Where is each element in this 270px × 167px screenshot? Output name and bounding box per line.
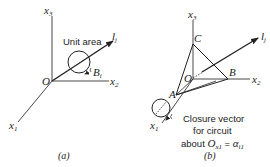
closure-circle (152, 99, 170, 117)
caption-b: (b) (204, 150, 216, 162)
axis-x1 (18, 81, 52, 122)
panel-b: x3 x2 x1 O C B A lj Closure vector for c… (149, 8, 266, 162)
vector-lj-dash (193, 72, 203, 78)
note-leader (171, 114, 173, 119)
note-line-1: Closure vector (183, 113, 244, 124)
label-point-c: C (194, 32, 202, 44)
label-unit-area: Unit area (63, 36, 102, 47)
note-line-3: about Ox1 = αi1 (181, 137, 244, 151)
label-x1: x1 (149, 119, 158, 133)
note-line-2: for circuit (193, 125, 232, 136)
closure-vector (156, 102, 166, 114)
circuit-arrow-icon (166, 116, 167, 120)
label-x3: x3 (187, 8, 197, 22)
label-x2: x2 (109, 75, 119, 89)
caption-a: (a) (58, 150, 70, 162)
unit-area-circle (68, 51, 90, 73)
label-point-b: B (229, 66, 236, 78)
label-point-a: A (168, 88, 176, 100)
label-origin: O (42, 75, 50, 87)
edge-ab2 (176, 81, 216, 95)
panel-a: x3 x2 x1 O lj Unit area Bi (a) (8, 4, 119, 162)
vector-lj (52, 41, 113, 81)
label-lj: lj (261, 30, 266, 44)
edge-cb (193, 44, 228, 79)
label-x1: x1 (8, 119, 17, 133)
diagram-canvas: x3 x2 x1 O lj Unit area Bi (a) x3 x2 x1 … (0, 0, 270, 167)
vector-lj-inside (70, 56, 88, 68)
label-x2: x2 (251, 73, 261, 87)
label-lj: lj (112, 30, 117, 44)
circuit-leader (90, 68, 91, 72)
label-origin: O (184, 72, 192, 84)
label-x3: x3 (43, 4, 53, 18)
label-bi: Bi (93, 66, 102, 80)
